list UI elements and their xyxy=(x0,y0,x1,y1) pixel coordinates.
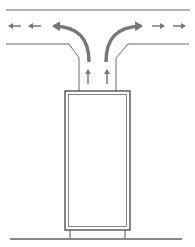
cabinet xyxy=(65,91,130,239)
airflow-diagram xyxy=(0,0,195,247)
duct-left-wall xyxy=(6,44,79,91)
duct-right-wall xyxy=(116,44,189,91)
